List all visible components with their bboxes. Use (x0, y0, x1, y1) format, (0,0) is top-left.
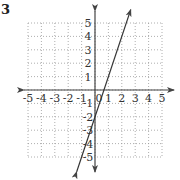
y-tick-label: -1 (83, 97, 94, 110)
y-tick-label: 1 (85, 71, 92, 84)
x-tick-label: -2 (63, 92, 74, 105)
x-tick-label: -5 (23, 92, 34, 105)
y-tick-label: 4 (85, 30, 92, 43)
y-tick-label: 3 (85, 44, 92, 57)
coordinate-graph: -5-4-3-2-101234554321-1-2-3-4-5 (0, 0, 180, 180)
x-tick-label: 1 (105, 92, 112, 105)
x-tick-label: 2 (118, 92, 125, 105)
x-tick-label: 4 (145, 92, 152, 105)
y-tick-label: -2 (83, 111, 94, 124)
y-tick-label: 5 (85, 17, 92, 30)
x-tick-label: -4 (36, 92, 47, 105)
x-tick-label: 3 (132, 92, 139, 105)
y-tick-label: -5 (83, 151, 94, 164)
x-tick-label: 5 (159, 92, 166, 105)
y-tick-label: 2 (85, 57, 92, 70)
x-tick-label: -3 (49, 92, 60, 105)
